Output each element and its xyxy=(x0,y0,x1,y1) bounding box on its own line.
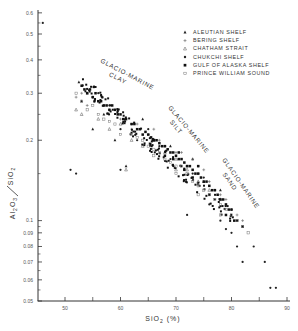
marker-square-open xyxy=(114,123,116,125)
x-ticks: 5060708090 xyxy=(62,297,290,311)
marker-square-filled xyxy=(196,191,198,193)
marker-square-filled xyxy=(124,120,126,122)
marker-square-filled xyxy=(218,201,220,203)
marker-square-filled xyxy=(105,98,107,100)
marker-square-open xyxy=(175,172,177,174)
marker-dot xyxy=(42,22,44,24)
x-tick-label: 90 xyxy=(284,305,290,311)
legend-label: GULF OF ALASKA SHELF xyxy=(193,62,269,68)
marker-plus xyxy=(241,219,244,222)
marker-square-filled xyxy=(131,129,133,131)
marker-square-filled xyxy=(213,208,215,210)
marker-square-open xyxy=(153,148,155,150)
marker-square-filled xyxy=(107,97,109,99)
marker-square-filled xyxy=(214,194,216,196)
marker-square-filled xyxy=(233,219,236,222)
marker-square-filled xyxy=(124,122,126,124)
marker-square-filled xyxy=(197,182,199,184)
marker-square-filled xyxy=(210,203,212,205)
marker-plus xyxy=(219,193,222,196)
marker-square-filled xyxy=(165,150,167,152)
marker-square-filled xyxy=(149,150,151,152)
marker-square-filled xyxy=(116,111,118,113)
marker-triangle-filled xyxy=(102,113,105,116)
marker-square-filled xyxy=(133,122,135,124)
y-tick-label: 0.6 xyxy=(26,10,33,16)
marker-square-open xyxy=(197,194,199,196)
svg-text:GLACIO-MARINE: GLACIO-MARINE xyxy=(100,57,156,91)
marker-dot xyxy=(147,128,149,130)
marker-plus xyxy=(175,151,178,154)
legend-item: CHUKCHI SHELF xyxy=(184,54,245,60)
marker-square-filled xyxy=(186,181,188,183)
marker-square-filled xyxy=(116,108,118,110)
marker-plus xyxy=(119,118,122,121)
marker-dot xyxy=(219,220,221,222)
marker-square-filled xyxy=(119,113,122,116)
marker-triangle-open xyxy=(119,122,122,125)
y-axis-title: Al2O3 SiO2 xyxy=(7,167,18,219)
marker-square-filled xyxy=(178,158,181,161)
marker-dot xyxy=(236,245,238,247)
marker-triangle-open xyxy=(130,139,133,142)
marker-square-filled xyxy=(102,105,104,107)
marker-square-filled xyxy=(164,145,167,148)
axes: 0.050.060.070.080.090.10.20.30.40.50.6 5… xyxy=(23,10,290,311)
marker-dot xyxy=(119,128,121,130)
y-tick-label: 0.07 xyxy=(23,259,33,265)
marker-triangle-open xyxy=(125,168,128,171)
marker-dot xyxy=(269,287,271,289)
legend-item: GULF OF ALASKA SHELF xyxy=(184,62,270,68)
marker-square-open xyxy=(169,161,171,163)
marker-triangle-open xyxy=(208,189,211,192)
marker-dot xyxy=(275,287,277,289)
marker-plus xyxy=(152,128,155,131)
marker-square-filled xyxy=(178,175,180,177)
marker-square-filled xyxy=(154,151,156,153)
marker-square-open xyxy=(164,158,166,160)
x-tick-label: 70 xyxy=(173,305,179,311)
marker-dot xyxy=(69,169,71,171)
marker-square-filled xyxy=(82,84,84,86)
marker-square-filled xyxy=(99,92,101,94)
y-tick-label: 0.4 xyxy=(26,57,33,63)
marker-plus xyxy=(75,96,78,99)
marker-square-filled xyxy=(144,131,147,134)
marker-plus xyxy=(236,214,239,217)
marker-square-filled xyxy=(156,153,158,155)
marker-square-filled xyxy=(212,205,214,207)
marker-square-filled xyxy=(86,88,88,90)
marker-square-filled xyxy=(91,96,94,99)
marker-square-filled xyxy=(89,91,91,93)
legend-label: CHUKCHI SHELF xyxy=(193,54,244,60)
marker-triangle-filled xyxy=(77,81,80,84)
region-label-clay: GLACIO-MARINE CLAY xyxy=(96,57,156,98)
marker-square-filled xyxy=(194,172,197,175)
legend-label: CHATHAM STRAIT xyxy=(193,45,248,51)
marker-square-filled xyxy=(184,64,187,67)
marker-square-filled xyxy=(109,104,111,106)
marker-square-filled xyxy=(222,198,225,201)
marker-triangle-open xyxy=(186,168,189,171)
marker-square-filled xyxy=(199,185,201,187)
legend-item: PRINCE WILLIAM SOUND xyxy=(184,70,270,76)
marker-plus xyxy=(158,139,161,142)
marker-square-filled xyxy=(84,90,86,92)
y-tick-label: 0.05 xyxy=(23,298,33,304)
marker-square-filled xyxy=(136,128,139,131)
marker-square-filled xyxy=(85,84,87,86)
marker-square-filled xyxy=(106,113,108,115)
marker-square-filled xyxy=(185,179,187,181)
marker-square-open xyxy=(97,113,99,115)
marker-dot xyxy=(192,172,194,174)
marker-dot xyxy=(136,139,138,141)
x-tick-label: 80 xyxy=(229,305,235,311)
marker-square-filled xyxy=(222,205,224,207)
x-axis-title: SiO2(%) xyxy=(145,315,180,324)
marker-square-filled xyxy=(86,92,89,95)
marker-square-filled xyxy=(204,198,206,200)
marker-triangle-filled xyxy=(184,31,187,34)
marker-square-filled xyxy=(205,195,207,197)
marker-square-filled xyxy=(144,142,146,144)
marker-square-open xyxy=(142,139,144,141)
